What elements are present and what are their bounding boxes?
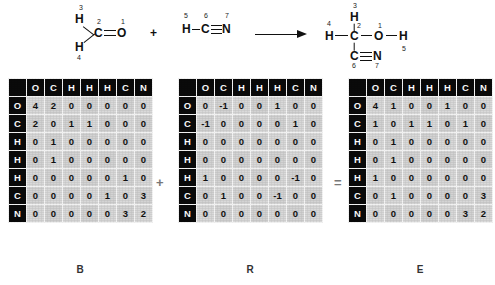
- matrix-cell: 1: [385, 151, 402, 168]
- matrix-cell: 0: [403, 205, 420, 222]
- matrix-cell: 0: [475, 169, 492, 186]
- matrix-cell: 0: [385, 205, 402, 222]
- matrix-row: C0100-100: [179, 187, 322, 204]
- matrix-table-B: OCHHHCNO4200000C2011000H0100000H0100000H…: [8, 78, 153, 223]
- matrix-cell: 0: [99, 151, 116, 168]
- matrix-row-header: N: [179, 205, 196, 222]
- matrix-column-header: N: [135, 79, 152, 96]
- matrix-cell: 0: [45, 115, 62, 132]
- atom-index-5: 5: [402, 45, 406, 52]
- matrix-row: H10000-10: [179, 169, 322, 186]
- matrix-row: N0000000: [179, 205, 322, 222]
- matrix-cell: 0: [421, 133, 438, 150]
- matrix-cell: 0: [251, 169, 268, 186]
- atom-index-6: 6: [204, 12, 208, 19]
- matrix-cell: 0: [269, 133, 286, 150]
- matrix-cell: 0: [135, 97, 152, 114]
- matrix-row-header: H: [349, 169, 366, 186]
- matrix-column-header: C: [215, 79, 232, 96]
- bond-C6-N7-line1: [211, 25, 222, 26]
- matrix-block-B: OCHHHCNO4200000C2011000H0100000H0100000H…: [8, 78, 153, 223]
- matrix-cell: -1: [287, 169, 304, 186]
- matrix-row: H0000010: [9, 169, 152, 186]
- atom-H-5: H: [182, 23, 191, 35]
- matrix-caption-B: B: [8, 264, 153, 275]
- matrix-row-header: N: [9, 205, 26, 222]
- matrix-cell: 1: [45, 133, 62, 150]
- bond-C6-N7-line1: [360, 52, 372, 53]
- matrix-cell: 0: [99, 133, 116, 150]
- matrix-cell: -1: [197, 115, 214, 132]
- atom-index-5: 5: [184, 12, 188, 19]
- matrix-row: H0100000: [9, 133, 152, 150]
- matrix-cell: 0: [117, 151, 134, 168]
- matrix-cell: 0: [81, 151, 98, 168]
- matrix-cell: 0: [81, 205, 98, 222]
- matrix-cell: 1: [197, 169, 214, 186]
- atom-N-7: N: [373, 50, 382, 62]
- matrix-table-E: OCHHHCNO4100100C1011010H0100000H0100000H…: [348, 78, 493, 223]
- matrix-cell: 0: [269, 151, 286, 168]
- matrix-cell: 0: [63, 97, 80, 114]
- matrix-cell: 0: [421, 187, 438, 204]
- matrix-cell: 0: [457, 151, 474, 168]
- matrix-cell: 0: [233, 187, 250, 204]
- matrix-row-header: H: [179, 151, 196, 168]
- matrix-row: H0100000: [349, 133, 492, 150]
- matrix-caption-R: R: [178, 264, 323, 275]
- matrix-row: O4200000: [9, 97, 152, 114]
- matrix-cell: 1: [367, 115, 384, 132]
- matrix-body-R: OCHHHCNO0-100100C-1000010H0000000H000000…: [179, 79, 322, 222]
- matrix-cell: 0: [27, 133, 44, 150]
- bond-C6-N7-line3: [360, 60, 372, 61]
- atom-C-6: C: [201, 23, 210, 35]
- matrix-column-header: H: [403, 79, 420, 96]
- matrix-cell: 1: [99, 187, 116, 204]
- bond-C2-O1: [361, 35, 372, 36]
- matrix-cell: 0: [215, 115, 232, 132]
- matrix-cell: 0: [439, 115, 456, 132]
- matrix-row: C0100003: [349, 187, 492, 204]
- matrix-row-header: C: [179, 115, 196, 132]
- matrix-column-header: O: [367, 79, 384, 96]
- matrix-cell: 0: [99, 205, 116, 222]
- reaction-arrow-icon: [255, 30, 307, 39]
- matrix-cell: 0: [45, 187, 62, 204]
- matrix-cell: 0: [457, 169, 474, 186]
- atom-index-3: 3: [353, 2, 357, 9]
- bond-C6-N7-line2: [360, 56, 372, 57]
- matrix-cell: 0: [117, 187, 134, 204]
- reaction-scheme: 3 H H 4 2 C 1 O + 5 H 6 C 7 N: [0, 0, 495, 68]
- matrix-cell: 0: [63, 187, 80, 204]
- matrix-cell: 4: [27, 97, 44, 114]
- matrix-header-row: OCHHHCN: [349, 79, 492, 96]
- matrix-cell: 0: [367, 187, 384, 204]
- matrix-row-header: H: [9, 151, 26, 168]
- matrix-cell: 0: [439, 133, 456, 150]
- matrix-cell: 0: [287, 133, 304, 150]
- matrix-cell: 0: [305, 115, 322, 132]
- matrix-cell: 0: [81, 133, 98, 150]
- matrix-cell: 1: [287, 115, 304, 132]
- matrix-cell: 0: [99, 115, 116, 132]
- matrix-row-header: C: [349, 187, 366, 204]
- matrix-cell: 0: [439, 169, 456, 186]
- matrix-cell: 0: [117, 97, 134, 114]
- atom-O-1: O: [117, 27, 126, 39]
- matrix-column-header: N: [305, 79, 322, 96]
- matrix-row: H0000000: [179, 151, 322, 168]
- matrix-cell: 0: [439, 151, 456, 168]
- bond-C6-N7-line3: [211, 33, 222, 34]
- matrix-corner-cell: [349, 79, 366, 96]
- matrix-cell: 0: [135, 151, 152, 168]
- matrix-column-header: H: [81, 79, 98, 96]
- matrix-row: N0000032: [9, 205, 152, 222]
- molecule-glycolonitrile: 3 H 4 H 2 C 1 O H 5 C 6 N 7: [325, 2, 435, 66]
- matrix-cell: 0: [197, 133, 214, 150]
- matrix-row: C-1000010: [179, 115, 322, 132]
- matrix-column-header: C: [117, 79, 134, 96]
- matrix-cell: 0: [233, 205, 250, 222]
- matrix-row-header: H: [179, 169, 196, 186]
- matrix-cell: 0: [135, 115, 152, 132]
- matrix-cell: 0: [305, 169, 322, 186]
